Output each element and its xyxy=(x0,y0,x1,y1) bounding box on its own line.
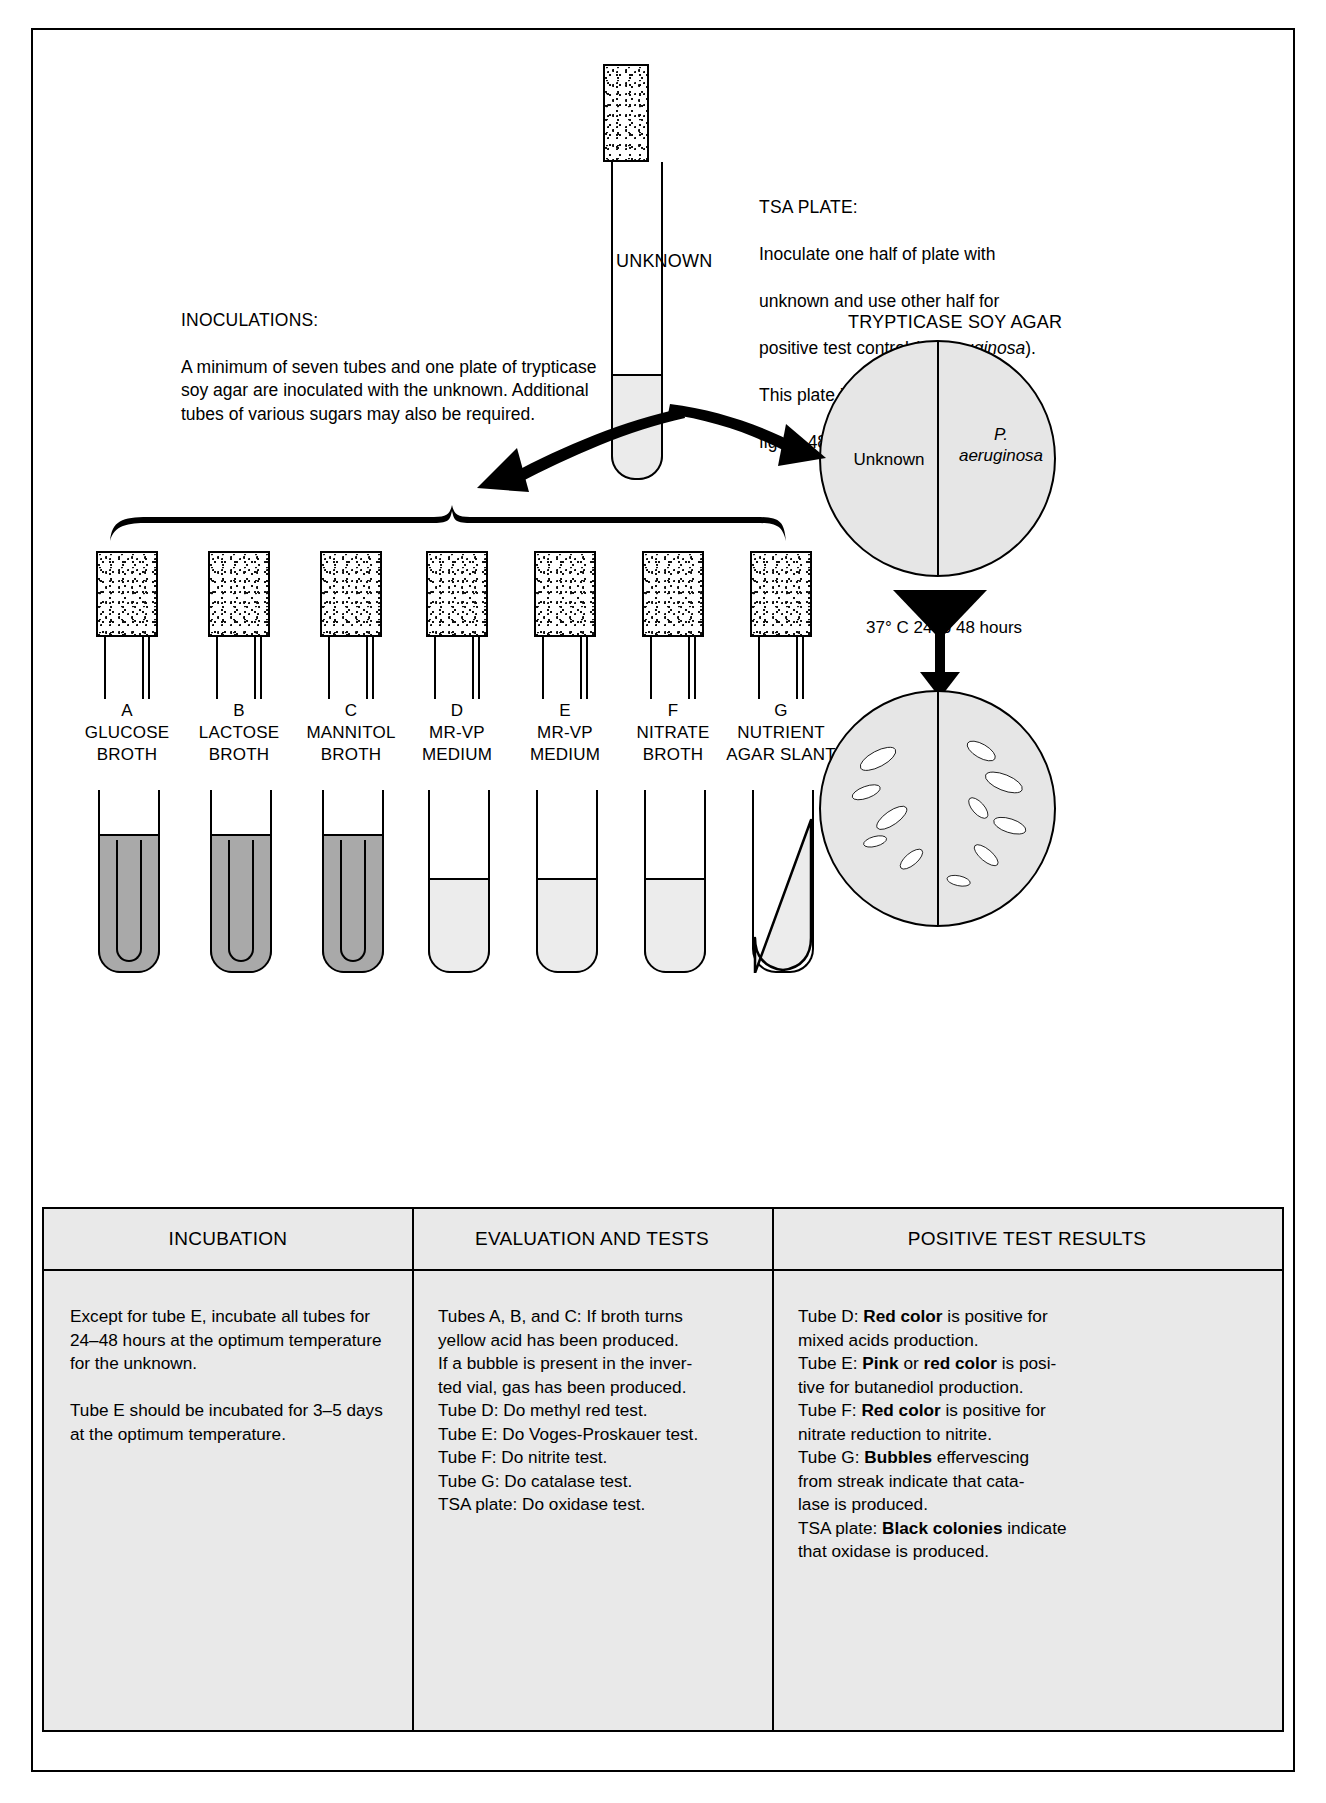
inoculations-heading: INOCULATIONS: xyxy=(181,309,601,333)
table-header-evaluation: EVALUATION AND TESTS xyxy=(412,1209,772,1269)
tube-group-brace xyxy=(108,505,788,543)
cotton-plug-f xyxy=(642,551,704,637)
positive-e-mid: or xyxy=(899,1353,924,1373)
positive-tsa-line1: TSA plate: Black colonies indicate xyxy=(798,1517,1256,1541)
tsa-plate-line-1: Inoculate one half of plate with xyxy=(759,244,995,264)
cotton-plug-d xyxy=(426,551,488,637)
positive-tube-f-line2: nitrate reduction to nitrite. xyxy=(798,1423,1256,1447)
tube-neck-g xyxy=(758,637,800,699)
positive-tube-d-line1: Tube D: Red color is positive for xyxy=(798,1305,1256,1329)
tube-neck-f xyxy=(650,637,692,699)
cotton-plug-e xyxy=(534,551,596,637)
split-arrow-left xyxy=(455,402,685,502)
tube-body-d xyxy=(428,790,490,973)
positive-tube-e-line2: tive for butanediol production. xyxy=(798,1376,1256,1400)
positive-tube-e-line1: Tube E: Pink or red color is posi- xyxy=(798,1352,1256,1376)
tube-letter-d: D xyxy=(451,701,463,720)
tube-body-c xyxy=(322,790,384,973)
durham-vial-c xyxy=(340,840,366,962)
tube-body-e xyxy=(536,790,598,973)
positive-tube-f-line1: Tube F: Red color is positive for xyxy=(798,1399,1256,1423)
tube-name-f-line1: NITRATE xyxy=(637,723,710,742)
tube-name-d-line1: MR-VP xyxy=(429,723,485,742)
tube-name-a-line1: GLUCOSE xyxy=(85,723,170,742)
positive-d-suffix: is positive for xyxy=(943,1306,1048,1326)
results-table: INCUBATION EVALUATION AND TESTS POSITIVE… xyxy=(42,1207,1284,1732)
table-header-positive: POSITIVE TEST RESULTS xyxy=(772,1209,1282,1269)
tube-broth-e xyxy=(536,878,598,973)
cotton-plug-c xyxy=(320,551,382,637)
table-cell-evaluation: Tubes A, B, and C: If broth turns yellow… xyxy=(412,1271,772,1730)
cotton-plug-a xyxy=(96,551,158,637)
results-table-header-row: INCUBATION EVALUATION AND TESTS POSITIVE… xyxy=(44,1209,1282,1271)
positive-f-bold: Red color xyxy=(861,1400,940,1420)
table-cell-positive-results: Tube D: Red color is positive for mixed … xyxy=(772,1271,1282,1730)
positive-e-suffix: is posi- xyxy=(997,1353,1056,1373)
control-species: aeruginosa xyxy=(959,446,1043,465)
tube-body-a xyxy=(98,790,160,973)
tube-name-g-line2: AGAR SLANT xyxy=(726,745,836,764)
tsa-plate-line-3-post: ). xyxy=(1025,338,1036,358)
tube-letter-c: C xyxy=(345,701,357,720)
table-header-incubation: INCUBATION xyxy=(44,1209,412,1269)
positive-e-bold-1: Pink xyxy=(862,1353,898,1373)
tube-name-e-line1: MR-VP xyxy=(537,723,593,742)
tsa-plate-heading: TSA PLATE: xyxy=(759,196,1099,220)
evaluation-line-8: Tube G: Do catalase test. xyxy=(438,1470,746,1494)
positive-d-prefix: Tube D: xyxy=(798,1306,863,1326)
durham-vial-b xyxy=(228,840,254,962)
table-cell-incubation: Except for tube E, incubate all tubes fo… xyxy=(44,1271,412,1730)
evaluation-line-7: Tube F: Do nitrite test. xyxy=(438,1446,746,1470)
evaluation-line-2: yellow acid has been produced. xyxy=(438,1329,746,1353)
positive-tube-g-line3: lase is produced. xyxy=(798,1493,1256,1517)
positive-tube-d-line2: mixed acids production. xyxy=(798,1329,1256,1353)
tube-name-b-line1: LACTOSE xyxy=(199,723,279,742)
positive-tsa-bold: Black colonies xyxy=(882,1518,1002,1538)
incubation-arrow-label: 37° C 24 to 48 hours xyxy=(866,616,1022,640)
tube-letter-f: F xyxy=(668,701,679,720)
tube-name-c-line1: MANNITOL xyxy=(306,723,395,742)
positive-g-prefix: Tube G: xyxy=(798,1447,864,1467)
tube-name-a-line2: BROTH xyxy=(97,745,158,764)
colony-growth xyxy=(821,692,1054,925)
cotton-plug-unknown xyxy=(603,64,649,162)
tube-label-g: G NUTRIENT AGAR SLANT xyxy=(711,700,851,766)
incubation-paragraph-2: Tube E should be incubated for 3–5 days … xyxy=(70,1399,386,1446)
cotton-plug-g xyxy=(750,551,812,637)
tube-name-d-line2: MEDIUM xyxy=(422,745,492,764)
positive-g-suffix: effervescing xyxy=(932,1447,1029,1467)
tube-name-e-line2: MEDIUM xyxy=(530,745,600,764)
tube-broth-f xyxy=(644,878,706,973)
tube-letter-a: A xyxy=(121,701,133,720)
evaluation-line-9: TSA plate: Do oxidase test. xyxy=(438,1493,746,1517)
tube-letter-e: E xyxy=(559,701,571,720)
positive-g-bold: Bubbles xyxy=(864,1447,932,1467)
positive-tube-g-line1: Tube G: Bubbles effervescing xyxy=(798,1446,1256,1470)
evaluation-line-4: ted vial, gas has been produced. xyxy=(438,1376,746,1400)
tsa-plate-incubated xyxy=(819,690,1056,927)
tube-neck-d xyxy=(434,637,476,699)
tube-body-b xyxy=(210,790,272,973)
plate-half-label-unknown: Unknown xyxy=(834,450,944,470)
plate-half-label-control: P. aeruginosa xyxy=(946,424,1056,466)
tube-neck-a xyxy=(104,637,146,699)
positive-f-suffix: is positive for xyxy=(941,1400,1046,1420)
tube-name-c-line2: BROTH xyxy=(321,745,382,764)
tube-name-g-line1: NUTRIENT xyxy=(737,723,825,742)
positive-e-bold-2: red color xyxy=(923,1353,997,1373)
tsa-plate-line-2: unknown and use other half for xyxy=(759,291,999,311)
durham-vial-a xyxy=(116,840,142,962)
split-arrow-right xyxy=(668,398,828,480)
positive-e-prefix: Tube E: xyxy=(798,1353,862,1373)
cotton-plug-b xyxy=(208,551,270,637)
unknown-tube-label: UNKNOWN xyxy=(616,226,712,273)
tube-neck-c xyxy=(328,637,370,699)
evaluation-line-6: Tube E: Do Voges-Proskauer test. xyxy=(438,1423,746,1447)
tube-letter-b: B xyxy=(233,701,245,720)
tube-name-b-line2: BROTH xyxy=(209,745,270,764)
positive-f-prefix: Tube F: xyxy=(798,1400,861,1420)
incubation-arrow xyxy=(885,588,995,698)
control-genus: P. xyxy=(994,425,1008,444)
tube-letter-g: G xyxy=(774,701,787,720)
positive-tsa-line2: that oxidase is produced. xyxy=(798,1540,1256,1564)
